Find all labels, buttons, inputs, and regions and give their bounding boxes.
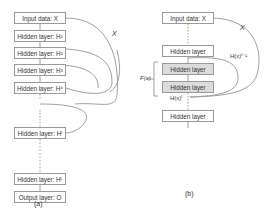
residual-function-label: F(x) [140,75,151,81]
input-label-b: Input data: X [170,15,206,22]
layer-label: Hidden layer [170,113,205,120]
layer-label: Hidden layer [170,66,205,73]
input-box-a: Input data: X [14,12,66,24]
caption-a: (a) [34,200,43,207]
layer-label: Hidden layer: H¹ [17,33,63,40]
layer-label: Hidden layer [170,48,205,55]
layer-label: Hidden layer: H⁴ [17,85,63,92]
skip-label-a: X [112,30,117,37]
hidden-layer-a-4: Hidden layer: H⁴ [14,82,66,94]
hidden-layer-b-3: Hidden layer [162,81,214,93]
hidden-layer-a-2: Hidden layer: H² [14,47,66,59]
hidden-layer-b-4: Hidden layer [162,110,214,122]
layer-label: Hidden layer: Hˡ [18,130,62,137]
hidden-layer-a-L: Hidden layer: Hᴸ [14,173,66,185]
hidden-layer-a-3: Hidden layer: H³ [14,64,66,76]
prev-activation-label: H(x)ˡ⁻¹ [230,52,247,59]
out-activation-label: H(x)ˡ [170,95,182,101]
hidden-layer-b-2: Hidden layer [162,63,214,75]
input-label-a: Input data: X [22,15,58,22]
skip-label-b: X [240,24,245,31]
hidden-layer-a-1: Hidden layer: H¹ [14,30,66,42]
layer-label: Hidden layer: H² [17,50,63,57]
hidden-layer-a-l: Hidden layer: Hˡ [14,127,66,139]
input-box-b: Input data: X [162,12,214,24]
caption-b: (b) [185,190,194,197]
layer-label: Hidden layer: Hᴸ [17,176,63,183]
layer-label: Hidden layer: H³ [17,67,63,74]
hidden-layer-b-1: Hidden layer [162,45,214,57]
layer-label: Hidden layer [170,84,205,91]
